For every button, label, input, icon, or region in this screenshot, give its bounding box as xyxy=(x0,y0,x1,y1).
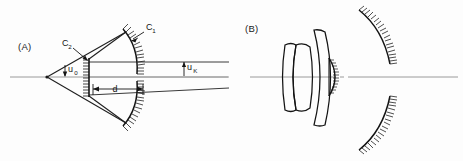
dimension-d-label: d xyxy=(112,84,117,94)
axial-vertex-point xyxy=(45,75,48,78)
ray-upper-converging xyxy=(47,32,126,77)
panel-b-label: (B) xyxy=(245,23,259,34)
panel-b: (B) xyxy=(245,6,458,154)
angle-u0-label: u xyxy=(68,64,73,74)
panel-a-label: (A) xyxy=(18,41,32,52)
angle-uk-subscript: K xyxy=(193,67,198,74)
figure-canvas: d u 0 u K C 1 C 2 xyxy=(0,0,463,161)
dimension-d-arrow-left xyxy=(93,87,99,92)
label-c1: C 1 xyxy=(131,22,156,43)
angle-uk-label: u xyxy=(187,62,192,72)
primary-mirror-lower-arc xyxy=(359,96,397,154)
label-c2: C 2 xyxy=(62,38,88,61)
lens-meniscus xyxy=(314,30,331,126)
angle-uk: u K xyxy=(182,62,198,76)
angle-u0: u 0 xyxy=(63,64,78,77)
label-c1-leader xyxy=(133,32,144,39)
panel-a: d u 0 u K C 1 C 2 xyxy=(10,22,229,131)
optical-figure: d u 0 u K C 1 C 2 xyxy=(0,0,463,161)
ray-lower-return xyxy=(89,96,126,123)
primary-mirror-upper-arc xyxy=(359,6,397,64)
angle-uk-arrowhead-up xyxy=(182,62,186,67)
primary-mirror-upper-c1 xyxy=(123,24,145,74)
angle-u0-subscript: 0 xyxy=(74,69,78,76)
label-c1-subscript: 1 xyxy=(152,27,156,34)
secondary-mirror-hatching xyxy=(83,60,89,96)
primary-mirror-lower-surface xyxy=(123,81,137,126)
label-c2-subscript: 2 xyxy=(68,43,72,50)
primary-mirror-upper-surface xyxy=(123,29,137,74)
ray-upper-return xyxy=(89,32,126,59)
angle-u0-arrowhead xyxy=(63,72,67,78)
